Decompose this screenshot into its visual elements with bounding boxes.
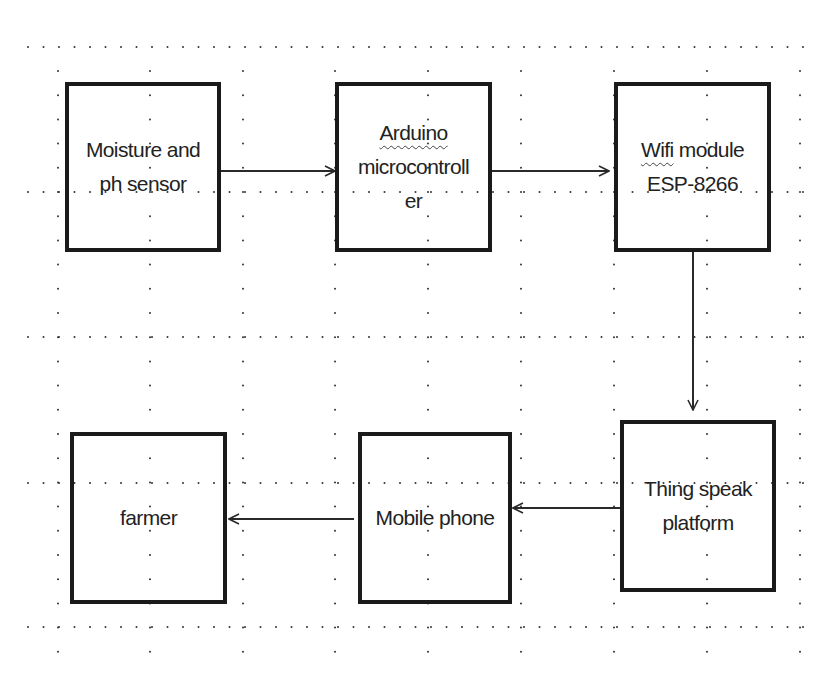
node-mobile-phone: Mobile phone xyxy=(358,432,512,604)
node-label-line: Wifi module xyxy=(641,133,744,167)
node-label-line: microcontroll xyxy=(358,150,469,184)
node-label-line: er xyxy=(405,184,422,218)
node-label-line: Thing speak xyxy=(644,472,752,506)
node-label-line: ph sensor xyxy=(100,167,187,201)
node-label-line: Mobile phone xyxy=(376,501,495,535)
node-thingspeak-platform: Thing speak platform xyxy=(620,420,776,592)
node-label-word: Wifi xyxy=(641,138,674,161)
node-label-line: Arduino xyxy=(379,116,447,150)
node-farmer: farmer xyxy=(70,432,227,604)
node-label-line: Moisture and xyxy=(86,133,200,167)
node-moisture-ph-sensor: Moisture and ph sensor xyxy=(65,82,221,252)
node-label-line: platform xyxy=(662,506,733,540)
node-label-line: farmer xyxy=(120,501,177,535)
block-diagram: Moisture and ph sensor Arduino microcont… xyxy=(0,0,838,686)
node-wifi-module: Wifi module ESP-8266 xyxy=(614,82,771,252)
node-label-line: ESP-8266 xyxy=(647,167,738,201)
node-label-word: module xyxy=(674,138,745,161)
node-arduino-microcontroller: Arduino microcontroll er xyxy=(335,82,492,252)
